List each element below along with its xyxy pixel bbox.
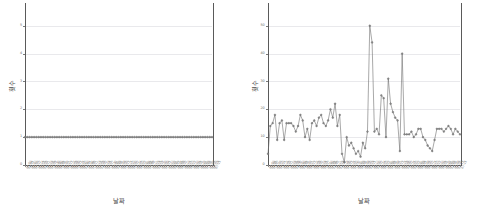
y-axis-title-left: 횟수 xyxy=(9,69,15,103)
x-axis-title-left: 날짜 xyxy=(25,198,212,204)
series-marker xyxy=(204,136,206,138)
y-tick-label: 20 xyxy=(254,107,265,110)
series-marker xyxy=(343,161,345,163)
series-marker xyxy=(412,136,414,138)
series-marker xyxy=(280,120,282,122)
series-marker xyxy=(403,133,405,135)
series-marker xyxy=(269,125,271,127)
series-marker xyxy=(172,136,174,138)
series-marker xyxy=(86,136,88,138)
series-marker xyxy=(81,136,83,138)
series-marker xyxy=(398,150,400,152)
series-marker xyxy=(329,108,331,110)
series-marker xyxy=(33,136,35,138)
series-marker xyxy=(449,128,451,130)
series-marker xyxy=(287,122,289,124)
series-marker xyxy=(38,136,40,138)
series-marker xyxy=(131,136,133,138)
series-marker xyxy=(304,136,306,138)
series-marker xyxy=(396,120,398,122)
series-marker xyxy=(154,136,156,138)
series-marker xyxy=(368,25,370,27)
series-marker xyxy=(290,122,292,124)
two-panel-line-chart-figure: 01234501-0201-0501-0701-0901-1201-1401-1… xyxy=(0,0,485,212)
series-marker xyxy=(24,136,26,138)
series-marker xyxy=(79,136,81,138)
series-marker xyxy=(92,136,94,138)
series-marker xyxy=(35,136,37,138)
series-marker xyxy=(327,120,329,122)
series-marker xyxy=(127,136,129,138)
series-marker xyxy=(193,136,195,138)
series-marker xyxy=(394,117,396,119)
y-tick-label: 10 xyxy=(254,135,265,138)
series-marker xyxy=(382,97,384,99)
series-marker xyxy=(306,128,308,130)
series-marker xyxy=(181,136,183,138)
series-marker xyxy=(108,136,110,138)
y-tick-label: 0 xyxy=(11,163,22,166)
series-marker xyxy=(459,133,461,135)
series-marker xyxy=(40,136,42,138)
series-marker xyxy=(276,139,278,141)
series-marker xyxy=(152,136,154,138)
series-marker xyxy=(311,122,313,124)
series-marker xyxy=(136,136,138,138)
series-marker xyxy=(355,153,357,155)
series-marker xyxy=(380,94,382,96)
series-marker xyxy=(95,136,97,138)
series-marker xyxy=(186,136,188,138)
series-marker xyxy=(405,133,407,135)
series-marker xyxy=(122,136,124,138)
x-axis-title-right: 날짜 xyxy=(268,198,460,204)
series-marker xyxy=(375,128,377,130)
series-marker xyxy=(168,136,170,138)
series-marker xyxy=(77,136,79,138)
series-marker xyxy=(200,136,202,138)
series-marker xyxy=(338,114,340,116)
series-marker xyxy=(415,133,417,135)
series-marker xyxy=(211,136,213,138)
y-tick-label: 5 xyxy=(11,24,22,27)
series-marker xyxy=(429,147,431,149)
series-marker xyxy=(99,136,101,138)
series-marker xyxy=(419,128,421,130)
series-marker xyxy=(322,122,324,124)
series-marker xyxy=(313,120,315,122)
series-marker xyxy=(366,131,368,133)
series-marker xyxy=(387,78,389,80)
series-marker xyxy=(308,139,310,141)
series-marker xyxy=(74,136,76,138)
series-marker xyxy=(389,103,391,105)
series-marker xyxy=(320,114,322,116)
series-marker xyxy=(385,136,387,138)
series-marker xyxy=(63,136,65,138)
series-marker xyxy=(161,136,163,138)
series-marker xyxy=(348,145,350,147)
series-marker xyxy=(378,133,380,135)
data-series-line xyxy=(25,9,212,165)
plot-area-left: 01234501-0201-0501-0701-0901-1201-1401-1… xyxy=(25,9,212,165)
series-marker xyxy=(177,136,179,138)
series-marker xyxy=(297,125,299,127)
series-marker xyxy=(336,125,338,127)
series-marker xyxy=(90,136,92,138)
right-spine-line xyxy=(213,3,214,165)
series-marker xyxy=(438,128,440,130)
series-marker xyxy=(417,128,419,130)
series-marker xyxy=(392,111,394,113)
y-tick-label: 4 xyxy=(11,52,22,55)
series-marker xyxy=(67,136,69,138)
series-marker xyxy=(433,139,435,141)
series-marker xyxy=(88,136,90,138)
series-marker xyxy=(209,136,211,138)
series-marker xyxy=(361,142,363,144)
series-marker xyxy=(197,136,199,138)
series-marker xyxy=(271,122,273,124)
series-marker xyxy=(156,136,158,138)
series-marker xyxy=(359,156,361,158)
series-marker xyxy=(301,120,303,122)
series-marker xyxy=(129,136,131,138)
chart-panel-left: 01234501-0201-0501-0701-0901-1201-1401-1… xyxy=(0,0,243,212)
plot-area-right: 0102030405001-0201-0501-0701-0901-1201-1… xyxy=(268,9,460,165)
